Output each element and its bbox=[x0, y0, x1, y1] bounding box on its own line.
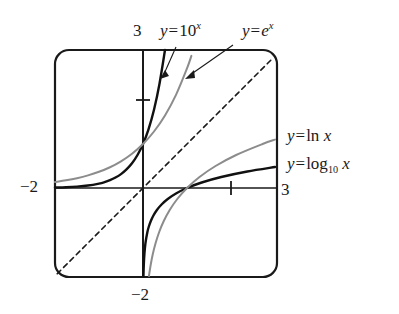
label-y-axis-top: 3 bbox=[133, 22, 142, 39]
curve-label-ln-eq: = bbox=[295, 126, 307, 145]
label-x-axis-left: −2 bbox=[20, 178, 38, 195]
curve-label-exp10-base: 10 bbox=[179, 21, 196, 40]
figure-container: 3 3 −2 −2 y=10x y=ex y=ln x y=log10 x bbox=[0, 0, 399, 314]
curve-label-ln-arg: x bbox=[324, 126, 332, 145]
curve-label-ln-y: y bbox=[287, 126, 295, 145]
curve-label-expe-y: y bbox=[242, 21, 250, 40]
curve-label-log10-eq: = bbox=[295, 154, 307, 173]
curve-label-expe: y=ex bbox=[242, 21, 273, 39]
curve-label-exp10-y: y bbox=[160, 21, 168, 40]
curve-label-exp10: y=10x bbox=[160, 21, 201, 39]
curve-label-log10-base: 10 bbox=[328, 164, 338, 175]
curve-label-exp10-eq: = bbox=[168, 21, 180, 40]
curve-label-exp10-exponent: x bbox=[196, 20, 201, 31]
label-x-axis-right: 3 bbox=[281, 181, 290, 198]
label-y-axis-bottom: −2 bbox=[131, 286, 149, 303]
curve-label-log10-fn: log bbox=[306, 154, 328, 173]
curve-label-ln: y=ln x bbox=[287, 127, 331, 144]
curve-label-expe-exponent: x bbox=[269, 20, 274, 31]
curve-label-expe-eq: = bbox=[250, 21, 262, 40]
curve-label-expe-base: e bbox=[261, 21, 269, 40]
curve-label-log10-arg: x bbox=[342, 154, 350, 173]
curve-label-log10: y=log10 x bbox=[287, 155, 350, 176]
curve-label-ln-fn: ln bbox=[306, 126, 319, 145]
curve-label-log10-y: y bbox=[287, 154, 295, 173]
